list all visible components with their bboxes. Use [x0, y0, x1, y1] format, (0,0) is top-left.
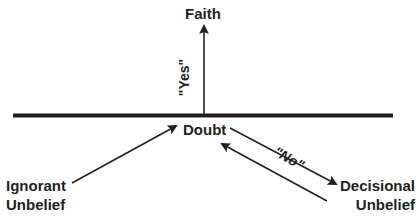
ignorant-line1: Ignorant [6, 176, 66, 195]
yes-label: "Yes" [175, 59, 194, 96]
decisional-line2: Unbelief [340, 195, 415, 214]
ignorant-unbelief-label: Ignorant Unbelief [6, 176, 66, 214]
decisional-unbelief-label: Decisional Unbelief [340, 176, 415, 214]
doubt-label: Doubt [183, 120, 226, 139]
ignorant-to-doubt-arrow [72, 126, 176, 183]
ignorant-line2: Unbelief [6, 195, 66, 214]
faith-label: Faith [185, 4, 221, 23]
decisional-line1: Decisional [340, 176, 415, 195]
